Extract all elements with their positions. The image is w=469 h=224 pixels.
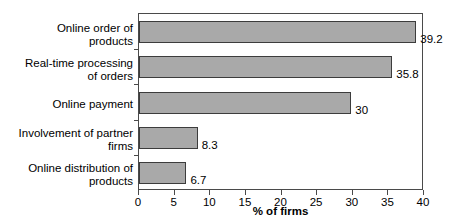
y-axis-tick-1: [134, 84, 139, 85]
category-label-4-line-1: products: [10, 175, 133, 188]
x-axis-tick-3: [245, 190, 246, 195]
category-label-1: Real-time processing of orders: [10, 57, 138, 83]
y-axis-tick-3: [134, 155, 139, 156]
x-axis-tick-8: [423, 190, 424, 195]
x-axis-title: % of firms: [138, 205, 423, 217]
category-label-0-line-1: products: [10, 35, 133, 48]
category-label-4-line-0: Online distribution of: [10, 162, 133, 175]
x-axis-tick-0: [138, 190, 139, 195]
y-axis-tick-0: [134, 49, 139, 50]
value-label-4: 6.7: [190, 175, 206, 187]
category-label-0: Online order of products: [10, 22, 138, 48]
category-label-4: Online distribution of products: [10, 162, 138, 188]
bar-3: [139, 127, 198, 149]
category-label-1-line-1: of orders: [10, 70, 133, 83]
x-axis-tick-5: [316, 190, 317, 195]
x-axis-tick-6: [352, 190, 353, 195]
x-axis-tick-2: [209, 190, 210, 195]
bar-0: [139, 21, 416, 43]
value-label-0: 39.2: [420, 34, 442, 46]
x-axis-tick-1: [174, 190, 175, 195]
category-axis-labels: Online order of products Real-time proce…: [0, 13, 138, 190]
bar-chart: Online order of products Real-time proce…: [0, 0, 469, 224]
category-label-3-line-0: Involvement of partner: [10, 127, 133, 140]
bar-2: [139, 92, 351, 114]
category-label-3-line-1: firms: [10, 140, 133, 153]
x-axis-tick-4: [281, 190, 282, 195]
x-axis-tick-7: [387, 190, 388, 195]
category-label-2-line-0: Online payment: [10, 98, 133, 111]
category-label-2: Online payment: [10, 98, 138, 111]
value-label-2: 30: [355, 105, 368, 117]
value-label-3: 8.3: [202, 140, 218, 152]
category-label-3: Involvement of partner firms: [10, 127, 138, 153]
bar-1: [139, 56, 392, 78]
value-label-1: 35.8: [396, 69, 418, 81]
y-axis-tick-2: [134, 120, 139, 121]
plot-area: [138, 13, 423, 190]
bar-4: [139, 162, 186, 184]
category-label-1-line-0: Real-time processing: [10, 57, 133, 70]
category-label-0-line-0: Online order of: [10, 22, 133, 35]
